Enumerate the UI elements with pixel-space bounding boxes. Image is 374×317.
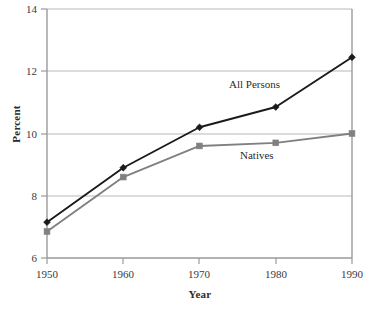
data-series-layer bbox=[44, 54, 356, 235]
series-natives bbox=[44, 131, 355, 235]
data-point-marker bbox=[120, 174, 126, 180]
x-axis-title: Year bbox=[150, 288, 250, 300]
data-point-marker bbox=[44, 229, 50, 235]
x-tick-label-1980: 1980 bbox=[254, 269, 298, 280]
y-tick-label-12: 12 bbox=[11, 66, 37, 77]
x-tick-label-1970: 1970 bbox=[177, 269, 221, 280]
x-tick-label-1960: 1960 bbox=[101, 269, 145, 280]
series-label-natives: Natives bbox=[240, 150, 274, 161]
series-label-all-persons: All Persons bbox=[229, 79, 280, 90]
data-point-marker bbox=[196, 124, 203, 131]
x-tick-label-1990: 1990 bbox=[330, 269, 374, 280]
x-tick-marks bbox=[47, 258, 352, 264]
y-tick-label-14: 14 bbox=[11, 4, 37, 15]
data-point-marker bbox=[273, 140, 279, 146]
line-chart-figure: 14 12 10 8 6 1950 1960 1970 1980 1990 Pe… bbox=[0, 0, 374, 317]
y-tick-label-6: 6 bbox=[11, 253, 37, 264]
y-tick-label-8: 8 bbox=[11, 191, 37, 202]
x-tick-label-1950: 1950 bbox=[25, 269, 69, 280]
y-axis-title: Percent bbox=[10, 94, 22, 154]
data-point-marker bbox=[197, 143, 203, 149]
gridlines bbox=[47, 9, 352, 196]
data-point-marker bbox=[349, 131, 355, 137]
